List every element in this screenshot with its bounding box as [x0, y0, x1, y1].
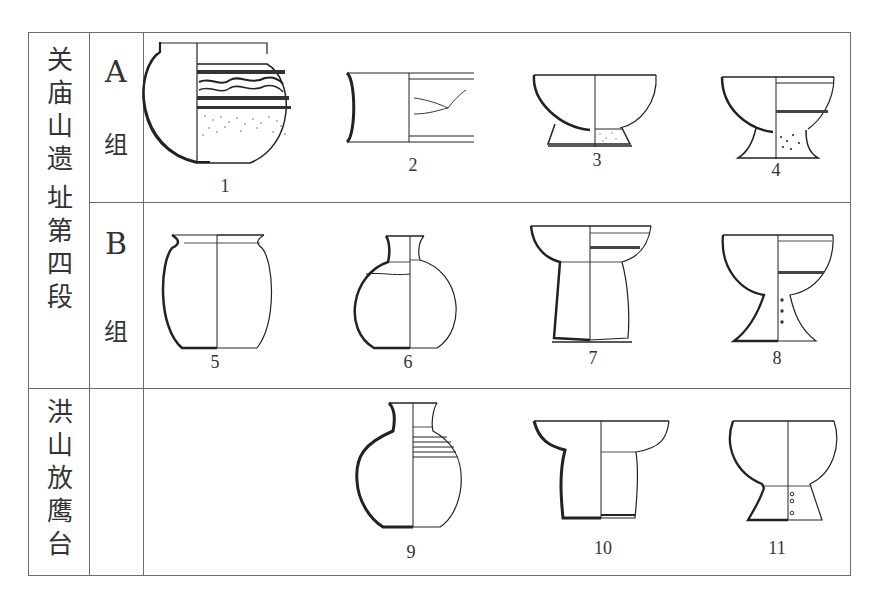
artifact-10-stand: [531, 418, 671, 524]
group-b-suffix: 组: [104, 312, 128, 347]
artifact-6-flask: [352, 234, 467, 352]
column-divider-2: [143, 32, 144, 576]
site-char: 址: [47, 182, 73, 215]
artifact-11-dou: [730, 418, 840, 524]
artifact-3-bowl: [530, 72, 660, 152]
site-label-hongshan: 洪 山 放 鹰 台: [40, 396, 80, 561]
row-divider-site: [28, 388, 851, 389]
artifact-1-painted-jar: [155, 40, 295, 180]
site-char: 关: [47, 44, 73, 77]
site-char: 放: [47, 462, 73, 495]
artifact-number: 3: [582, 150, 612, 171]
site-char: 山: [47, 429, 73, 462]
artifact-number: 8: [762, 348, 792, 369]
group-a-suffix: 组: [104, 125, 128, 160]
artifact-7-stand: [528, 224, 658, 346]
artifact-number: 5: [200, 352, 230, 373]
site-char: 洪: [47, 396, 73, 429]
site-char: 第: [47, 215, 73, 248]
artifact-number: 1: [210, 176, 240, 197]
site-char: 四: [47, 248, 73, 281]
artifact-9-pot: [355, 401, 465, 531]
row-divider-ab: [89, 202, 851, 203]
site-char: 鹰: [47, 495, 73, 528]
artifact-8-dou: [720, 233, 836, 345]
artifact-number: 6: [393, 352, 423, 373]
site-char: 遗: [47, 143, 73, 176]
artifact-number: 10: [588, 538, 618, 559]
artifact-4-dou: [718, 74, 838, 164]
artifact-2-cylinder: [344, 70, 484, 150]
site-char: 段: [47, 281, 73, 314]
group-b-letter: B: [105, 226, 127, 261]
artifact-number: 11: [762, 538, 792, 559]
artifact-number: 2: [398, 155, 428, 176]
artifact-5-jar: [162, 232, 272, 350]
column-divider-1: [89, 32, 90, 576]
group-a-letter: A: [105, 54, 127, 89]
site-char: 庙: [47, 77, 73, 110]
site-label-guanmiaoshan: 关 庙 山 遗 址 第 四 段: [40, 44, 80, 314]
site-char: 山: [47, 110, 73, 143]
site-char: 台: [47, 528, 73, 561]
artifact-number: 7: [578, 348, 608, 369]
artifact-number: 4: [761, 160, 791, 181]
artifact-number: 9: [396, 542, 426, 563]
